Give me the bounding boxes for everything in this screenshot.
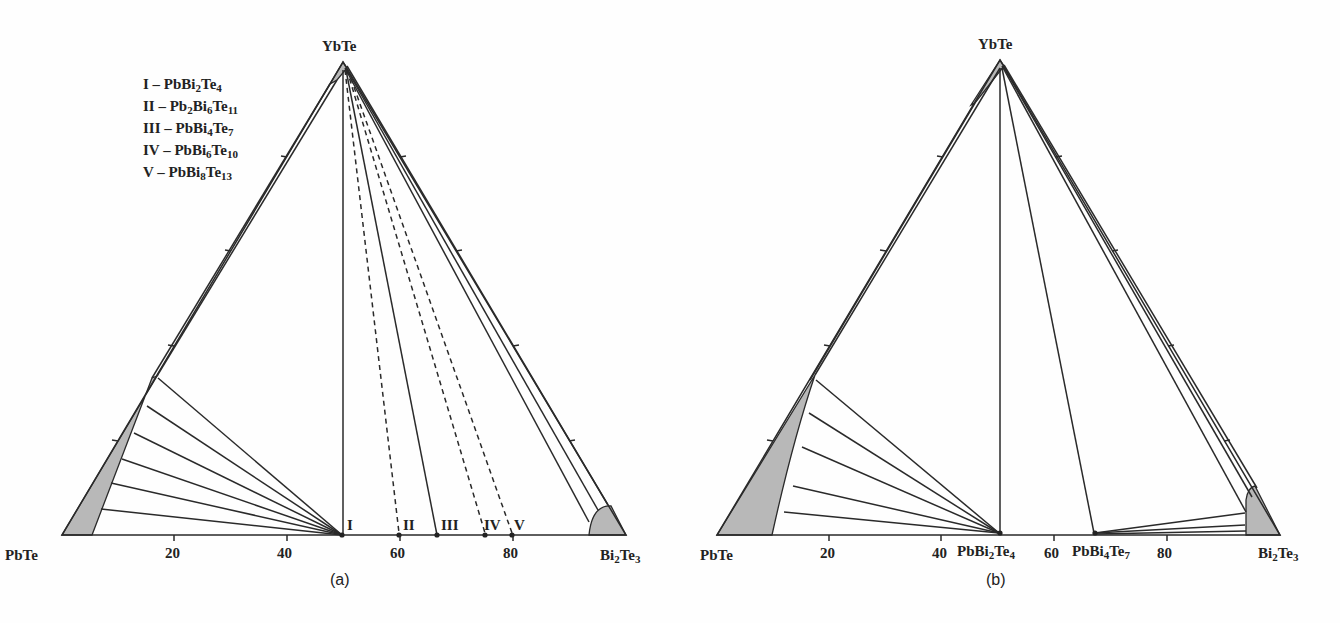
axis-tick-40-b: 40 (932, 545, 947, 561)
vertex-label-ybte-a: YbTe (322, 38, 357, 54)
svg-text:I – PbBi2Te4: I – PbBi2Te4 (143, 76, 222, 94)
svg-text:IV – PbBi6Te10: IV – PbBi6Te10 (143, 142, 238, 160)
mark-I: I (347, 517, 353, 533)
caption-a: (a) (330, 571, 350, 588)
mark-III: III (441, 517, 459, 533)
ybte-solid-solution-region-b (971, 60, 1004, 105)
axis-tick-60-a: 60 (390, 545, 405, 561)
vertex-label-bi2te3-b: Bi2Te3 (1258, 545, 1299, 563)
mark-V: V (514, 517, 525, 533)
axis-tick-40-a: 40 (277, 545, 292, 561)
vertex-label-pbte-a: PbTe (5, 547, 38, 563)
axis-tick-20-a: 20 (165, 545, 180, 561)
axis-tick-60-b: 60 (1044, 545, 1059, 561)
triangle-outline-b (717, 60, 1280, 535)
mark-II: II (403, 517, 415, 533)
svg-text:III – PbBi4Te7: III – PbBi4Te7 (143, 120, 234, 138)
legend-a: I – PbBi2Te4 II – Pb2Bi6Te11 III – PbBi4… (143, 76, 238, 182)
compound-label-pbbi2te4: PbBi2Te4 (957, 543, 1015, 561)
mark-IV: IV (484, 517, 501, 533)
panel-b-diagram (717, 60, 1280, 541)
svg-text:V – PbBi8Te13: V – PbBi8Te13 (143, 164, 233, 182)
svg-text:II – Pb2Bi6Te11: II – Pb2Bi6Te11 (143, 98, 238, 116)
vertex-label-ybte-b: YbTe (978, 36, 1013, 52)
vertex-label-bi2te3-a: Bi2Te3 (600, 547, 641, 565)
bi2te3-solid-solution-region-a (589, 506, 626, 535)
caption-b: (b) (986, 571, 1006, 588)
axis-tick-20-b: 20 (820, 545, 835, 561)
vertex-label-pbte-b: PbTe (700, 547, 733, 563)
compound-label-pbbi4te7: PbBi4Te7 (1072, 543, 1130, 561)
axis-tick-80-b: 80 (1157, 545, 1172, 561)
axis-tick-80-a: 80 (503, 545, 518, 561)
